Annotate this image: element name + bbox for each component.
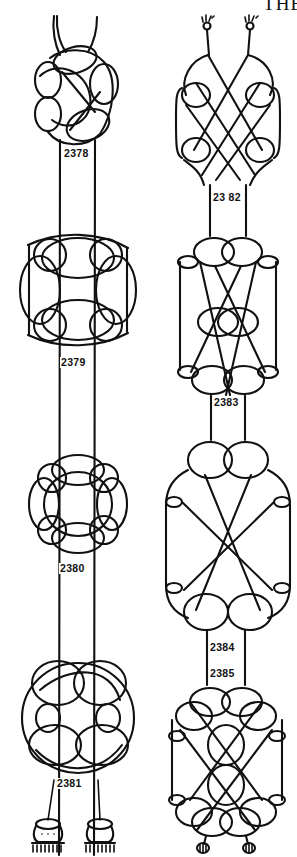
knot-2381	[22, 661, 134, 820]
knot-2380	[29, 455, 127, 553]
figure-label-2379: 2379	[60, 357, 87, 368]
knot-2379	[20, 235, 136, 346]
figure-label-2382: 23 82	[212, 192, 242, 203]
figure-label-2380: 2380	[59, 563, 86, 574]
knot-2378	[35, 16, 118, 855]
ring-ends-bottom	[197, 843, 255, 853]
figure-label-2383: 2383	[213, 397, 240, 408]
knot-illustration	[0, 0, 297, 857]
knot-2385	[169, 688, 285, 844]
crown-ends-top	[202, 15, 258, 55]
figure-label-2385: 2385	[209, 668, 236, 679]
figure-label-2381: 2381	[56, 778, 83, 789]
figure-label-2384: 2384	[209, 642, 236, 653]
figure-label-2378: 2378	[63, 148, 90, 159]
knot-2382	[176, 55, 280, 205]
book-page: THE	[0, 0, 297, 857]
tassel-right	[85, 819, 115, 852]
